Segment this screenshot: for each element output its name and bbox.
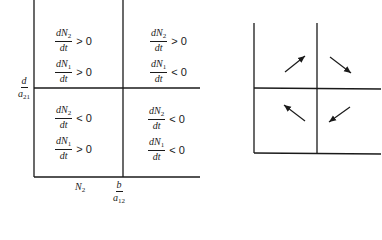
y-threshold-label: da21 — [18, 76, 30, 101]
tl-dn2-expr: dN2dt > 0 — [55, 28, 92, 53]
tr-dn1-expr: dN1dt < 0 — [150, 59, 187, 84]
arrow-up-right-icon — [285, 56, 305, 72]
tl-dn1-expr: dN1dt > 0 — [55, 59, 92, 84]
x-threshold-label: ba12 — [113, 180, 125, 205]
bl-dn1-expr: dN1dt > 0 — [55, 136, 92, 161]
br-dn2-expr: dN2dt < 0 — [148, 106, 185, 131]
right-phase-grid — [254, 23, 381, 154]
arrow-down-right-icon — [330, 57, 351, 73]
arrow-up-left-icon — [284, 105, 305, 121]
x-axis-label: N2 — [75, 181, 85, 194]
right-horizontal-isocline — [254, 88, 381, 89]
br-dn1-expr: dN1dt < 0 — [148, 137, 185, 162]
bl-dn2-expr: dN2dt < 0 — [55, 105, 92, 130]
arrow-down-left-icon — [329, 107, 350, 122]
right-x-axis — [254, 153, 381, 154]
tr-dn2-expr: dN2dt > 0 — [150, 28, 187, 53]
